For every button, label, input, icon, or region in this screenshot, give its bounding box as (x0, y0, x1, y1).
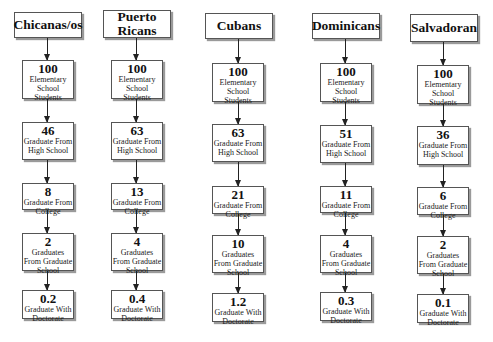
arrow-down-icon (136, 210, 137, 233)
node-label: Elementary School Students (321, 78, 371, 105)
node-label: Graduate With Doctorate (213, 308, 263, 326)
node-college: 6 Graduate From College (417, 187, 469, 215)
node-doctorate: 1.2 Graduate With Doctorate (212, 293, 264, 322)
arrow-down-icon (345, 102, 346, 125)
node-label: Graduate With Doctorate (418, 309, 468, 327)
arrow-down-icon (443, 104, 444, 126)
node-value: 100 (112, 62, 162, 75)
node-graduate-school: 2 Graduates From Graduate School (417, 236, 469, 274)
node-college: 21 Graduate From College (212, 186, 264, 214)
node-value: 0.1 (418, 296, 468, 309)
column-header: Salvadoran (410, 14, 478, 42)
node-high-school: 63 Graduate From High School (212, 124, 264, 162)
column-title: Salvadoran (411, 21, 477, 35)
column-title: Dominicans (312, 19, 380, 33)
node-label: Graduate From College (321, 201, 371, 219)
node-value: 11 (321, 188, 371, 201)
node-value: 21 (213, 188, 263, 201)
column-title: Puerto Ricans (106, 10, 168, 38)
node-label: Graduates From Graduate School (321, 250, 371, 277)
node-value: 100 (213, 65, 263, 78)
node-value: 2 (418, 238, 468, 251)
node-doctorate: 0.3 Graduate With Doctorate (320, 292, 372, 321)
node-graduate-school: 10 Graduates From Graduate School (212, 235, 264, 273)
node-label: Graduate From College (112, 198, 162, 216)
column-header: Puerto Ricans (103, 10, 171, 38)
node-label: Graduate From High School (418, 141, 468, 159)
node-value: 4 (112, 235, 162, 248)
arrow-down-icon (345, 39, 346, 63)
arrow-down-icon (238, 162, 239, 186)
node-label: Graduates From Graduate School (112, 248, 162, 275)
column-header: Dominicans (312, 13, 380, 39)
arrow-down-icon (238, 102, 239, 124)
node-label: Graduate With Doctorate (112, 305, 162, 323)
node-elementary: 100 Elementary School Students (417, 65, 469, 104)
node-value: 63 (213, 126, 263, 139)
arrow-down-icon (443, 165, 444, 187)
node-value: 100 (321, 65, 371, 78)
node-college: 13 Graduate From College (111, 183, 163, 210)
node-value: 13 (112, 185, 162, 198)
node-college: 11 Graduate From College (320, 186, 372, 213)
node-value: 63 (112, 124, 162, 137)
node-value: 100 (418, 67, 468, 80)
node-doctorate: 0.4 Graduate With Doctorate (111, 290, 163, 319)
node-high-school: 51 Graduate From High School (320, 125, 372, 163)
node-value: 4 (321, 237, 371, 250)
arrow-down-icon (345, 213, 346, 235)
node-elementary: 100 Elementary School Students (111, 60, 163, 99)
column-header: Cubans (205, 13, 273, 39)
node-high-school: 63 Graduate From High School (111, 122, 163, 160)
node-label: Graduate With Doctorate (321, 307, 371, 325)
column-title: Cubans (217, 19, 261, 33)
node-graduate-school: 4 Graduates From Graduate School (111, 233, 163, 271)
node-doctorate: 0.1 Graduate With Doctorate (417, 294, 469, 323)
node-label: Elementary School Students (213, 78, 263, 105)
node-label: Graduate From High School (112, 137, 162, 155)
arrow-down-icon (443, 42, 444, 65)
arrow-down-icon (238, 214, 239, 235)
arrow-down-icon (136, 38, 137, 60)
arrow-down-icon (345, 273, 346, 292)
node-label: Elementary School Students (112, 75, 162, 102)
arrow-down-icon (238, 39, 239, 63)
node-high-school: 36 Graduate From High School (417, 126, 469, 165)
node-value: 10 (213, 237, 263, 250)
node-label: Elementary School Students (418, 80, 468, 107)
node-value: 51 (321, 127, 371, 140)
node-elementary: 100 Elementary School Students (320, 63, 372, 102)
node-value: 6 (418, 189, 468, 202)
node-value: 1.2 (213, 295, 263, 308)
node-label: Graduate From High School (213, 139, 263, 157)
node-label: Graduate From High School (321, 140, 371, 158)
arrow-down-icon (136, 99, 137, 122)
node-value: 0.3 (321, 294, 371, 307)
node-elementary: 100 Elementary School Students (212, 63, 264, 102)
arrow-down-icon (136, 271, 137, 290)
arrow-down-icon (238, 273, 239, 293)
node-graduate-school: 4 Graduates From Graduate School (320, 235, 372, 273)
node-value: 36 (418, 128, 468, 141)
arrow-down-icon (345, 163, 346, 186)
arrow-down-icon (136, 160, 137, 183)
column-salvadoran: Salvadoran 100 Elementary School Student… (0, 0, 90, 342)
node-value: 0.4 (112, 292, 162, 305)
arrow-down-icon (443, 215, 444, 236)
arrow-down-icon (443, 274, 444, 294)
